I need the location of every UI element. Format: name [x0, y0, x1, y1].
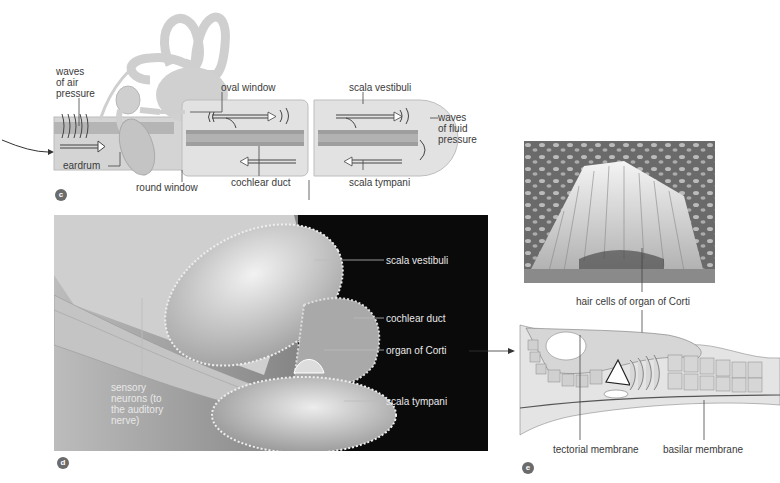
label-eardrum: eardrum	[63, 160, 100, 171]
label-basilar-membrane: basilar membrane	[663, 444, 743, 455]
micrograph-image	[524, 141, 715, 283]
panel-c: waves of air pressure eardrum oval windo…	[0, 0, 500, 200]
label-scala-tympani-c: scala tympani	[349, 177, 410, 188]
label-scala-vestibuli-c: scala vestibuli	[349, 82, 411, 93]
panel-badge-e: e	[522, 462, 534, 474]
panel-e	[518, 320, 780, 450]
label-hair-cells: hair cells of organ of Corti	[576, 296, 690, 307]
label-sensory-neurons: sensory neurons (to the auditory nerve)	[111, 382, 163, 426]
panel-badge-c: c	[55, 189, 67, 201]
label-cochlear-duct-d: cochlear duct	[386, 313, 445, 324]
label-organ-of-corti-d: organ of Corti	[386, 345, 447, 356]
label-waves-of-fluid-pressure: waves of fluid pressure	[438, 112, 477, 145]
label-scala-tympani-d: scala tympani	[386, 396, 447, 407]
label-tectorial-membrane: tectorial membrane	[553, 444, 639, 455]
panel-badge-d: d	[57, 457, 69, 469]
organ-of-corti-drawing	[518, 320, 780, 450]
label-scala-vestibuli-d: scala vestibuli	[386, 255, 448, 266]
hair-cell-micrograph	[524, 141, 715, 283]
label-waves-of-air-pressure: waves of air pressure	[56, 66, 95, 99]
panel-d: scala vestibuli cochlear duct organ of C…	[54, 215, 488, 451]
label-cochlear-duct: cochlear duct	[231, 177, 290, 188]
label-oval-window: oval window	[221, 82, 275, 93]
label-round-window: round window	[136, 182, 198, 193]
